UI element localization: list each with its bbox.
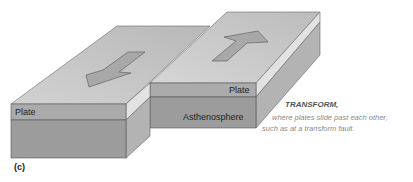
- caption-line-1: where plates slide past each other,: [272, 113, 388, 123]
- left-plate-label: Plate: [15, 107, 36, 117]
- panel-label: (c): [14, 162, 25, 172]
- caption-line-2: such as at a transform fault.: [262, 124, 355, 134]
- asthenosphere-label: Asthenosphere: [183, 112, 244, 122]
- caption-title: TRANSFORM,: [285, 100, 338, 109]
- right-plate-label: Plate: [229, 85, 250, 95]
- transform-boundary-diagram: [0, 0, 413, 182]
- left-asthenosphere-front: [11, 120, 126, 158]
